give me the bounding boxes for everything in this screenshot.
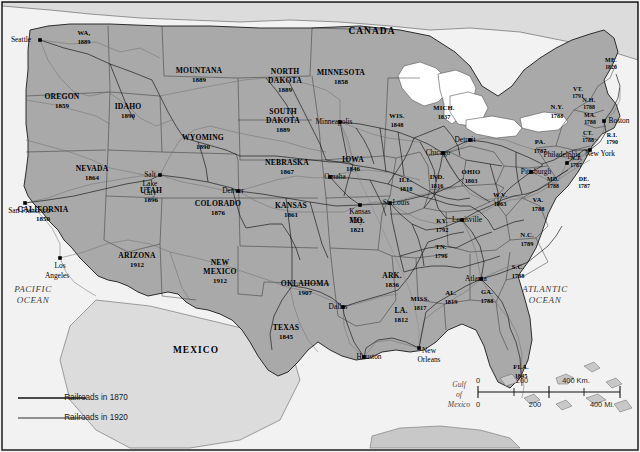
- state-label: 1846: [346, 165, 361, 173]
- ocean-label: OCEAN: [17, 295, 50, 305]
- state-label: DE.: [579, 176, 590, 182]
- state-label: MOUNTANA: [176, 66, 223, 75]
- state-label: 1792: [436, 226, 449, 233]
- state-label: 1788: [551, 112, 564, 119]
- state-label: 1817: [414, 304, 427, 311]
- city-label: Philadelphia: [544, 150, 582, 159]
- state-label: NEW: [211, 258, 230, 267]
- state-label: WIS.: [389, 112, 404, 119]
- gulf-label: of: [456, 390, 463, 399]
- state-label: MA.: [584, 112, 596, 118]
- state-label: 1889: [278, 86, 293, 94]
- state-label: 1796: [435, 252, 448, 259]
- state-label: PA.: [535, 138, 546, 145]
- city-marker: [417, 346, 421, 350]
- state-label: 1896: [144, 196, 159, 204]
- state-label: 1864: [85, 174, 100, 182]
- city-label: Orleans: [418, 355, 441, 364]
- state-label: OHIO: [462, 168, 481, 175]
- state-label: IND.: [430, 173, 445, 180]
- state-label: NEVADA: [76, 164, 109, 173]
- ocean-label: ATLANTIC: [521, 284, 568, 294]
- city-label: Houston: [356, 352, 381, 361]
- state-label: 1890: [196, 143, 211, 151]
- city-label: Boston: [609, 116, 630, 125]
- city-label: Los: [54, 261, 65, 270]
- state-label: 1788: [582, 137, 594, 143]
- state-label: N.Y.: [550, 103, 563, 110]
- state-label: KANSAS: [275, 201, 307, 210]
- state-label: 1889: [192, 76, 207, 84]
- city-marker: [158, 173, 162, 177]
- ocean-label: OCEAN: [529, 295, 562, 305]
- scale-km-tick: 400 Km.: [562, 376, 590, 385]
- scale-mi-tick: 400 Mi.: [590, 400, 614, 409]
- state-label: ARIZONA: [118, 251, 156, 260]
- state-label: NEBRASKA: [265, 158, 309, 167]
- state-label: 1812: [394, 316, 409, 324]
- state-label: 1848: [391, 121, 404, 128]
- state-label: WA,: [78, 29, 91, 36]
- state-label: FLA.: [513, 363, 529, 370]
- state-label: 1863: [494, 200, 507, 207]
- city-label: City: [144, 188, 157, 197]
- city-label: City: [351, 216, 364, 225]
- legend-label: Railroads in 1870: [64, 393, 128, 402]
- state-label: 1850: [36, 215, 51, 223]
- city-label: Detroit: [455, 135, 477, 144]
- state-label: S.C.: [512, 263, 525, 270]
- city-label: Pittsburgh: [521, 167, 552, 176]
- city-marker: [23, 201, 27, 205]
- state-label: 1788: [512, 272, 525, 279]
- state-label: 1836: [385, 281, 400, 289]
- state-label: 1788: [481, 297, 494, 304]
- state-label: 1867: [280, 168, 295, 176]
- state-label: MICH.: [433, 104, 454, 111]
- state-label: ILL.: [399, 176, 413, 183]
- ocean-label: PACIFIC: [13, 284, 52, 294]
- state-label: AL.: [445, 289, 457, 296]
- scale-mi-tick: 200: [529, 400, 541, 409]
- state-label: MEXICO: [203, 267, 236, 276]
- country-label: CANADA: [348, 26, 395, 36]
- state-label: SOUTH: [269, 107, 297, 116]
- state-label: OKLAHOMA: [281, 279, 330, 288]
- state-label: NORTH: [271, 67, 300, 76]
- state-label: 1787: [578, 183, 590, 189]
- city-label: New: [422, 346, 437, 355]
- state-label: 1858: [334, 78, 349, 86]
- state-label: MD.: [547, 176, 559, 182]
- city-label: Lake: [143, 179, 158, 188]
- state-label: 1889: [276, 126, 291, 134]
- state-label: 1788: [532, 205, 545, 212]
- city-marker: [38, 38, 42, 42]
- scale-km-tick: 200: [516, 376, 528, 385]
- state-label: 1789: [521, 240, 534, 247]
- city-marker: [602, 119, 606, 123]
- state-label: OREGON: [45, 92, 80, 101]
- state-label: N.H.: [583, 97, 596, 103]
- state-label: GA.: [481, 288, 493, 295]
- city-label: Kansas: [349, 207, 370, 216]
- city-marker: [58, 256, 62, 260]
- state-label: 1837: [438, 113, 451, 120]
- state-label: 1790: [606, 139, 618, 145]
- state-label: 1818: [400, 185, 413, 192]
- city-marker: [565, 161, 569, 165]
- state-label: ARK.: [382, 271, 402, 280]
- state-label: VA.: [533, 196, 544, 203]
- state-label: 1819: [445, 298, 458, 305]
- state-label: 1803: [465, 177, 478, 184]
- state-label: 1890: [121, 112, 136, 120]
- city-label: Denver: [222, 186, 244, 195]
- state-label: TN.: [435, 243, 447, 250]
- state-label: N.C.: [520, 231, 534, 238]
- state-label: CT.: [583, 130, 593, 136]
- city-label: New York: [585, 149, 615, 158]
- city-label: Louisville: [452, 215, 483, 224]
- city-label: San Francisco: [8, 206, 50, 215]
- scale-km-tick: 0: [476, 376, 480, 385]
- state-label: 1816: [431, 182, 444, 189]
- city-label: Angeles: [45, 271, 69, 280]
- state-label: WYOMING: [182, 133, 224, 142]
